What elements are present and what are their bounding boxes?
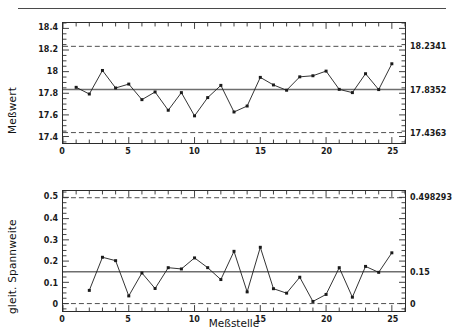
chart0-x-ticklabel: 10 [189, 147, 200, 156]
chart1-limit-label: 0.498293 [410, 192, 452, 201]
chart1-limit-label: 0.15 [410, 268, 430, 277]
chart1-x-ticklabel: 20 [321, 315, 332, 324]
chart1-y-ticklabel: 0.3 [44, 235, 58, 244]
moving-range-chart: gleit. Spannweite 00.10.20.30.40.5 0.498… [0, 186, 460, 335]
chart1-svg [63, 191, 405, 311]
chart0-y-ticklabel: 17.6 [38, 111, 58, 120]
chart1-limit-label: 0 [410, 300, 416, 309]
chart0-limit-label: 17.8352 [410, 85, 446, 94]
chart0-y-ticklabel: 18.2 [38, 45, 58, 54]
chart0-x-ticklabel: 25 [387, 147, 398, 156]
chart1-y-ticklabel: 0 [52, 300, 58, 309]
chart0-y-ticklabel: 17.8 [38, 89, 58, 98]
chart1-y-ticklabel: 0.1 [44, 278, 58, 287]
individuals-chart: Meßwert 17.417.617.81818.218.4 18.234117… [0, 18, 460, 166]
chart0-x-axis-ticklabels: 0510152025 [62, 147, 406, 161]
chart1-plot-area [62, 190, 406, 312]
chart0-y-ticklabel: 17.4 [38, 133, 58, 142]
chart1-y-ticklabel: 0.5 [44, 192, 58, 201]
chart0-plot-area [62, 22, 406, 144]
chart1-y-ticklabel: 0.4 [44, 214, 58, 223]
chart1-x-ticklabel: 10 [189, 315, 200, 324]
chart1-y-axis-title: gleit. Spannweite [6, 219, 18, 314]
chart0-x-ticklabel: 15 [255, 147, 266, 156]
chart0-y-axis-right-ticklabels: 18.234117.835217.4363 [410, 18, 460, 166]
chart0-x-ticklabel: 20 [321, 147, 332, 156]
chart0-y-axis-title: Meßwert [6, 87, 18, 134]
chart0-y-axis-left-ticklabels: 17.417.617.81818.218.4 [20, 18, 58, 166]
chart0-y-ticklabel: 18.4 [38, 23, 58, 32]
chart1-y-axis-left-ticklabels: 00.10.20.30.40.5 [20, 186, 58, 335]
chart1-y-ticklabel: 0.2 [44, 257, 58, 266]
chart0-x-ticklabel: 0 [59, 147, 65, 156]
chart1-x-ticklabel: 5 [125, 315, 131, 324]
x-axis-title: Meßstelle [209, 317, 259, 329]
chart1-x-ticklabel: 0 [59, 315, 65, 324]
chart1-x-ticklabel: 25 [387, 315, 398, 324]
header-rule [18, 8, 446, 9]
chart0-limit-label: 18.2341 [410, 41, 446, 50]
chart0-x-ticklabel: 5 [125, 147, 131, 156]
chart0-svg [63, 23, 405, 143]
chart0-limit-label: 17.4363 [410, 129, 446, 138]
chart1-y-axis-right-ticklabels: 0.4982930.150 [410, 186, 460, 335]
chart0-y-ticklabel: 18 [47, 67, 58, 76]
